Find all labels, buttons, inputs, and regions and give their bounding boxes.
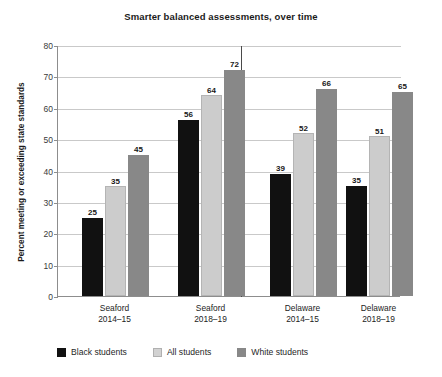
bar: 39 <box>270 174 291 296</box>
x-axis-label-line: Delaware <box>329 303 429 314</box>
y-tick-mark <box>54 172 58 173</box>
legend-swatch-icon <box>237 348 246 357</box>
bar: 45 <box>128 155 149 296</box>
y-tick-label: 10 <box>44 261 53 271</box>
bar: 25 <box>82 218 103 296</box>
bar: 35 <box>105 186 126 296</box>
x-axis-label-line: 2018–19 <box>329 314 429 325</box>
legend-label: White students <box>251 347 308 357</box>
x-axis-label: Seaford2018–19 <box>161 303 261 325</box>
bar-value-label: 72 <box>230 60 239 69</box>
bar-value-label: 35 <box>352 176 361 185</box>
bar: 52 <box>293 133 314 296</box>
bar: 35 <box>346 186 367 296</box>
bar-value-label: 51 <box>375 127 384 136</box>
y-tick-mark <box>54 203 58 204</box>
x-axis-label: Delaware2018–19 <box>329 303 429 325</box>
y-tick-label: 30 <box>44 198 53 208</box>
y-tick-label: 0 <box>48 292 53 302</box>
bar-value-label: 56 <box>184 110 193 119</box>
y-tick-mark <box>54 297 58 298</box>
legend-swatch-icon <box>57 348 66 357</box>
y-tick-label: 70 <box>44 72 53 82</box>
y-tick-mark <box>54 46 58 47</box>
bar-value-label: 66 <box>322 79 331 88</box>
y-tick-mark <box>54 140 58 141</box>
y-tick-label: 80 <box>44 41 53 51</box>
legend-item[interactable]: Black students <box>57 347 127 357</box>
bar-value-label: 25 <box>88 208 97 217</box>
bar-value-label: 35 <box>111 177 120 186</box>
y-tick-mark <box>54 77 58 78</box>
bar: 64 <box>201 95 222 296</box>
bar-value-label: 65 <box>398 82 407 91</box>
bar: 66 <box>316 89 337 296</box>
gridline <box>58 46 401 47</box>
y-tick-mark <box>54 109 58 110</box>
y-axis-title-label: Percent meeting or exceeding state stand… <box>14 46 28 297</box>
legend-swatch-icon <box>153 348 162 357</box>
bar-value-label: 64 <box>207 86 216 95</box>
chart-legend: Black studentsAll studentsWhite students <box>57 347 334 357</box>
x-axis-label-line: Seaford <box>161 303 261 314</box>
legend-item[interactable]: All students <box>153 347 211 357</box>
y-tick-label: 50 <box>44 135 53 145</box>
y-tick-mark <box>54 266 58 267</box>
x-axis-label: Seaford2014–15 <box>65 303 165 325</box>
y-tick-label: 40 <box>44 167 53 177</box>
y-tick-label: 20 <box>44 229 53 239</box>
bar: 65 <box>392 92 413 296</box>
y-tick-mark <box>54 234 58 235</box>
legend-label: All students <box>167 347 211 357</box>
bar-value-label: 39 <box>276 164 285 173</box>
chart-title: Smarter balanced assessments, over time <box>0 11 442 22</box>
legend-item[interactable]: White students <box>237 347 308 357</box>
x-axis-label-line: Seaford <box>65 303 165 314</box>
x-axis-label-line: 2014–15 <box>65 314 165 325</box>
x-axis-label-line: 2018–19 <box>161 314 261 325</box>
bar: 56 <box>178 120 199 296</box>
bar: 72 <box>224 70 245 296</box>
plot-area: 80706050403020100 2535455664723952663551… <box>57 46 400 297</box>
y-tick-label: 60 <box>44 104 53 114</box>
legend-label: Black students <box>71 347 127 357</box>
bar-value-label: 52 <box>299 124 308 133</box>
bar: 51 <box>369 136 390 296</box>
y-axis-title: Percent meeting or exceeding state stand… <box>14 46 28 297</box>
bar-value-label: 45 <box>134 145 143 154</box>
